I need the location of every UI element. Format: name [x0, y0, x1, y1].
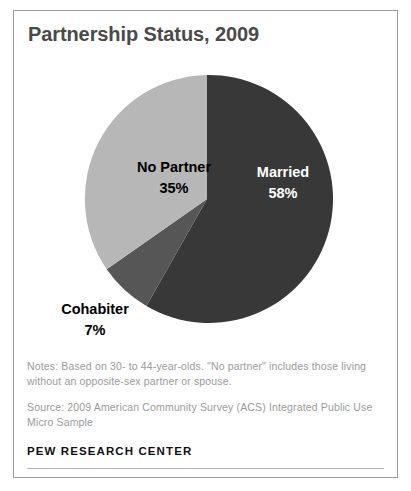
- footer-divider: [27, 468, 384, 469]
- pie-label-cohabiter: Cohabiter 7%: [30, 299, 160, 341]
- pie-chart: Married 58% No Partner 35% Cohabiter 7%: [14, 56, 397, 331]
- pie-label-married-name: Married: [228, 162, 338, 183]
- pie-label-cohabiter-value: 7%: [30, 320, 160, 341]
- pie-label-married-value: 58%: [228, 183, 338, 204]
- notes-text: Notes: Based on 30- to 44-year-olds. "No…: [27, 359, 387, 389]
- pie-label-no-partner-value: 35%: [109, 178, 239, 199]
- figure-frame: Partnership Status, 2009 Married 58% No …: [13, 10, 398, 478]
- notes-block: Notes: Based on 30- to 44-year-olds. "No…: [27, 359, 387, 430]
- source-text: Source: 2009 American Community Survey (…: [27, 400, 387, 430]
- pew-research-center-footer: PEW RESEARCH CENTER: [27, 445, 192, 457]
- pie-label-no-partner-name: No Partner: [109, 157, 239, 178]
- pie-label-married: Married 58%: [228, 162, 338, 204]
- page-title: Partnership Status, 2009: [28, 23, 259, 46]
- pie-label-no-partner: No Partner 35%: [109, 157, 239, 199]
- pie-label-cohabiter-name: Cohabiter: [30, 299, 160, 320]
